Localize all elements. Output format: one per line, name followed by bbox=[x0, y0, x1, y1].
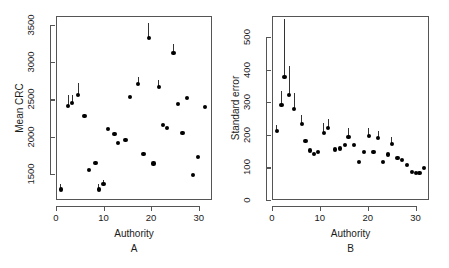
data-point bbox=[316, 150, 320, 154]
y-axis-tick-label: 500 bbox=[241, 20, 253, 54]
panel-a: 150020002500300035000102030 Mean CRC Aut… bbox=[0, 0, 224, 268]
y-axis-title-b: Standard error bbox=[230, 48, 242, 168]
y-axis-tick bbox=[50, 99, 55, 100]
data-point bbox=[322, 131, 326, 135]
y-axis-tick bbox=[50, 137, 55, 138]
data-point bbox=[116, 141, 120, 145]
data-point bbox=[157, 85, 161, 89]
x-axis-tick-label: 20 bbox=[136, 212, 166, 223]
panel-label-b: B bbox=[271, 243, 431, 254]
figure-two-panel-scatter: 150020002500300035000102030 Mean CRC Aut… bbox=[0, 0, 449, 268]
y-axis-tick-label: 3500 bbox=[25, 8, 37, 42]
y-axis-tick-label: 3000 bbox=[25, 45, 37, 79]
data-point bbox=[93, 161, 97, 165]
y-axis-tick-label: 1500 bbox=[25, 157, 37, 191]
y-axis-tick-label: 200 bbox=[241, 118, 253, 152]
x-axis-tick bbox=[320, 206, 321, 211]
x-axis-tick bbox=[104, 206, 105, 211]
data-point bbox=[279, 103, 283, 107]
error-bar bbox=[284, 19, 285, 77]
data-point bbox=[147, 36, 151, 40]
data-point bbox=[395, 156, 399, 160]
y-axis-tick-label: 0 bbox=[241, 183, 253, 217]
x-axis-tick bbox=[368, 206, 369, 211]
data-point bbox=[417, 171, 421, 175]
y-axis-tick bbox=[266, 102, 271, 103]
x-axis-tick-label: 0 bbox=[257, 212, 287, 223]
x-axis-tick bbox=[272, 206, 273, 211]
y-axis-tick bbox=[266, 200, 271, 201]
y-axis-line bbox=[266, 37, 267, 200]
data-point bbox=[191, 173, 195, 177]
data-point bbox=[292, 107, 296, 111]
data-point bbox=[151, 161, 155, 165]
y-axis-tick-label: 2000 bbox=[25, 120, 37, 154]
x-axis-tick-label: 30 bbox=[184, 212, 214, 223]
x-axis-tick-label: 10 bbox=[89, 212, 119, 223]
x-axis-tick bbox=[56, 206, 57, 211]
data-point bbox=[196, 155, 200, 159]
data-point bbox=[275, 129, 279, 133]
x-axis-tick-label: 30 bbox=[401, 212, 431, 223]
x-axis-tick-label: 0 bbox=[41, 212, 71, 223]
data-point bbox=[171, 51, 175, 55]
data-point bbox=[176, 102, 180, 106]
data-point bbox=[346, 135, 350, 139]
data-point bbox=[300, 122, 304, 126]
data-point bbox=[82, 114, 86, 118]
data-point bbox=[338, 146, 342, 150]
x-axis-line bbox=[272, 206, 416, 207]
x-axis-title-a: Authority bbox=[54, 228, 214, 239]
x-axis-line bbox=[56, 206, 199, 207]
panel-label-a: A bbox=[54, 243, 214, 254]
data-point bbox=[180, 131, 184, 135]
y-axis-tick bbox=[50, 25, 55, 26]
data-point bbox=[333, 147, 337, 151]
y-axis-title-a: Mean CRC bbox=[14, 48, 26, 168]
data-point bbox=[386, 152, 390, 156]
y-axis-tick-label: 100 bbox=[241, 150, 253, 184]
y-axis-tick bbox=[50, 62, 55, 63]
y-axis-tick-label: 2500 bbox=[25, 82, 37, 116]
data-point bbox=[303, 139, 307, 143]
error-bar bbox=[289, 66, 290, 95]
x-axis-tick bbox=[151, 206, 152, 211]
data-point bbox=[362, 150, 366, 154]
y-axis-tick bbox=[266, 70, 271, 71]
data-point bbox=[405, 163, 409, 167]
data-point bbox=[59, 187, 63, 191]
x-axis-title-b: Authority bbox=[271, 228, 431, 239]
y-axis-tick bbox=[50, 174, 55, 175]
y-axis-tick bbox=[266, 167, 271, 168]
data-point bbox=[282, 75, 286, 79]
x-axis-tick-label: 20 bbox=[353, 212, 383, 223]
x-axis-tick-label: 10 bbox=[305, 212, 335, 223]
data-point bbox=[371, 150, 375, 154]
y-axis-tick-label: 400 bbox=[241, 53, 253, 87]
x-axis-tick bbox=[199, 206, 200, 211]
data-point bbox=[390, 142, 394, 146]
y-axis-tick-label: 300 bbox=[241, 85, 253, 119]
data-point bbox=[141, 152, 145, 156]
plot-area-a bbox=[56, 16, 212, 200]
y-axis-tick bbox=[266, 135, 271, 136]
y-axis-tick bbox=[266, 37, 271, 38]
panel-b: 01002003004005000102030 Standard error A… bbox=[225, 0, 449, 268]
data-point bbox=[112, 132, 116, 136]
data-point bbox=[97, 187, 101, 191]
data-point bbox=[367, 134, 371, 138]
x-axis-tick bbox=[416, 206, 417, 211]
